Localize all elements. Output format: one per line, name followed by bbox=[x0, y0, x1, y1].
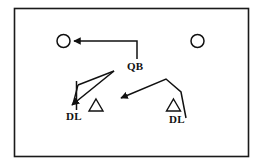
play-diagram-canvas: QB DL DL bbox=[0, 0, 260, 166]
label-dl-right: DL bbox=[169, 114, 185, 125]
label-dl-left: DL bbox=[66, 111, 82, 122]
label-qb: QB bbox=[127, 61, 143, 72]
diagram-svg bbox=[0, 0, 260, 166]
field-frame bbox=[15, 9, 249, 157]
